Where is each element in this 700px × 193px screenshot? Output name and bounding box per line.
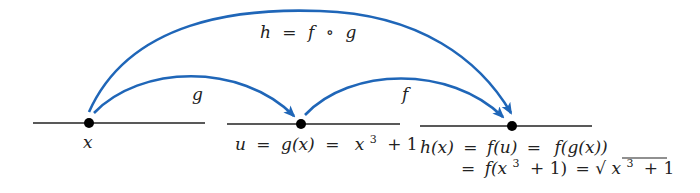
x-label: x bbox=[83, 132, 93, 152]
point-h-dot bbox=[507, 121, 517, 131]
point-x-dot bbox=[84, 118, 94, 128]
g-arrow-label: g bbox=[192, 84, 203, 104]
u-label: u = g(x) = x 3 + 1 bbox=[235, 127, 418, 154]
f-arrow-label: f bbox=[400, 84, 411, 104]
composition-label: h = f ∘ g bbox=[260, 22, 356, 42]
h-label-line1: h(x) = f(u) = f(g(x)) bbox=[420, 137, 608, 157]
point-u-dot bbox=[296, 119, 306, 129]
diagram-svg: h = f ∘ g g f x u = g(x) = x 3 + 1 h(x) … bbox=[0, 0, 700, 193]
composition-diagram: h = f ∘ g g f x u = g(x) = x 3 + 1 h(x) … bbox=[0, 0, 700, 193]
